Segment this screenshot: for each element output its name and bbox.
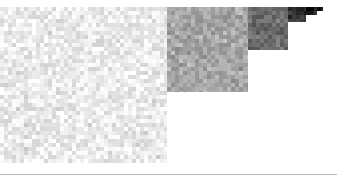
figure-canvas <box>0 0 337 185</box>
horizontal-rule <box>0 174 337 175</box>
stepped-heatmap <box>0 0 337 185</box>
